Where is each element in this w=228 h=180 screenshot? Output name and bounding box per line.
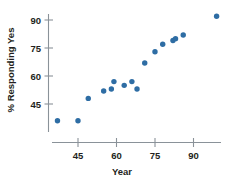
data-point [75,118,80,123]
scatter-plot-figure: 90 75 60 45 % Responding Yes 45 60 75 90… [0,0,228,180]
x-tick-label-90: 90 [188,150,199,161]
data-points-group [55,14,220,124]
data-point [55,118,60,123]
y-axis-title: % Responding Yes [5,28,16,113]
data-point [142,60,147,65]
plot-canvas: 90 75 60 45 % Responding Yes 45 60 75 90… [0,0,228,180]
data-point [214,14,219,19]
data-point [173,36,178,41]
data-point [160,42,165,47]
x-axis-title: Year [112,166,132,177]
data-point [129,79,134,84]
data-point [101,88,106,93]
data-point [86,96,91,101]
data-point [152,49,157,54]
y-tick-label-90: 90 [30,15,41,26]
y-tick-label-60: 60 [30,71,41,82]
y-tick-label-45: 45 [30,99,41,110]
data-point [122,83,127,88]
x-tick-label-45: 45 [73,150,84,161]
data-point [181,32,186,37]
x-tick-label-75: 75 [150,150,161,161]
data-point [111,79,116,84]
x-tick-label-60: 60 [111,150,122,161]
y-tick-label-75: 75 [30,43,41,54]
data-point [134,86,139,91]
data-point [109,86,114,91]
